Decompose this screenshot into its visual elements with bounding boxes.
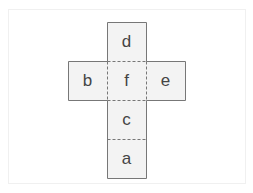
cube-net: d b f e c a	[0, 0, 253, 193]
net-outline	[0, 0, 253, 193]
outer-perimeter	[69, 23, 186, 179]
fold-lines	[108, 62, 147, 140]
